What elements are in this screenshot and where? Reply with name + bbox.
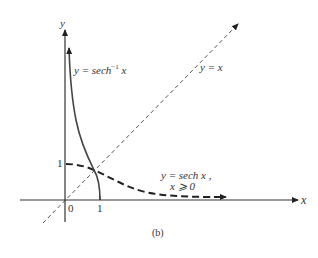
y-tick-label: 1 [57,158,63,169]
plot-area [0,0,318,258]
sech-label-line2: x ⩾ 0 [170,181,195,192]
figure-caption: (b) [152,228,164,238]
x-tick-label: 1 [97,203,103,214]
x-axis-label: x [301,194,306,206]
identity-line [43,24,238,223]
origin-label: 0 [68,203,74,214]
identity-label: y = x [200,62,223,73]
y-axis-label: y [60,18,65,29]
figure-canvas: y x 0 1 1 y = sech−1 x y = x y = sech x … [0,0,318,258]
sech-inverse-label: y = sech−1 x [74,64,126,76]
